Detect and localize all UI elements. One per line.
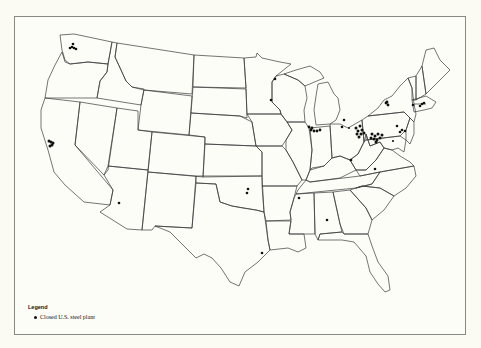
legend-title: Legend <box>28 304 95 310</box>
plant-markers <box>48 43 426 255</box>
state-borders <box>41 34 450 292</box>
us-map <box>0 0 481 348</box>
legend-item-label: Closed U.S. steel plant <box>40 314 95 320</box>
legend-item-closed-plant: Closed U.S. steel plant <box>34 314 95 320</box>
legend: Legend Closed U.S. steel plant <box>28 304 95 320</box>
filled-circle-icon <box>34 316 37 319</box>
